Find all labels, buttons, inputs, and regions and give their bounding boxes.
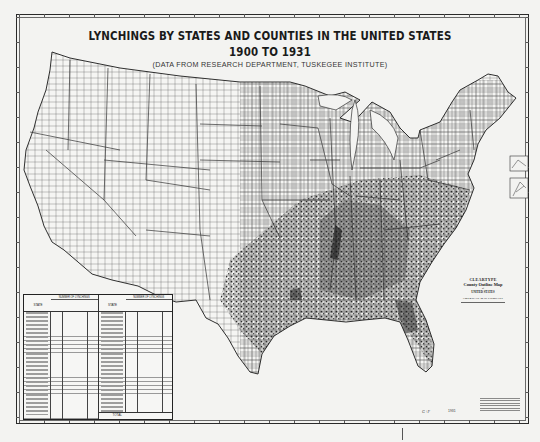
map-subtitle: (DATA FROM RESEARCH DEPARTMENT, TUSKEGEE… [0,60,540,69]
table-right-half: NUMBER OF LYNCHINGS STATE TOTAL [99,295,173,419]
inset-map-2 [510,178,528,198]
cartouche-scale-bar [461,302,505,303]
table-group-header: NUMBER OF LYNCHINGS [126,296,173,300]
table-rows [24,312,98,419]
call-number: G+F [422,409,430,414]
library-stamp [402,428,437,440]
table-state-header: STATE [101,303,125,307]
table-state-header: STATE [26,303,50,307]
cartouche-country: UNITED STATES [455,290,511,294]
table-rows [99,312,173,419]
table-header: NUMBER OF LYNCHINGS STATE [24,295,98,312]
publisher-imprint [480,398,520,412]
map-cartouche: CLEARTYPE County Outline Map of UNITED S… [455,277,511,305]
table-left-half: NUMBER OF LYNCHINGS STATE [24,295,99,419]
cartouche-publisher: AMERICAN MAP COMPANY [455,297,511,300]
map-sheet: LYNCHINGS BY STATES AND COUNTIES IN THE … [0,0,540,442]
lynchings-by-state-table: NUMBER OF LYNCHINGS STATE NUMBER OF LYNC… [23,294,173,420]
table-header: NUMBER OF LYNCHINGS STATE [99,295,173,312]
inset-map-1 [510,156,528,171]
table-total-row: TOTAL [99,412,173,419]
map-title-years: 1900 TO 1931 [49,44,492,59]
map-title: LYNCHINGS BY STATES AND COUNTIES IN THE … [49,28,492,43]
map-year-annotation: 1931 [448,409,456,413]
table-group-header: NUMBER OF LYNCHINGS [51,296,98,300]
